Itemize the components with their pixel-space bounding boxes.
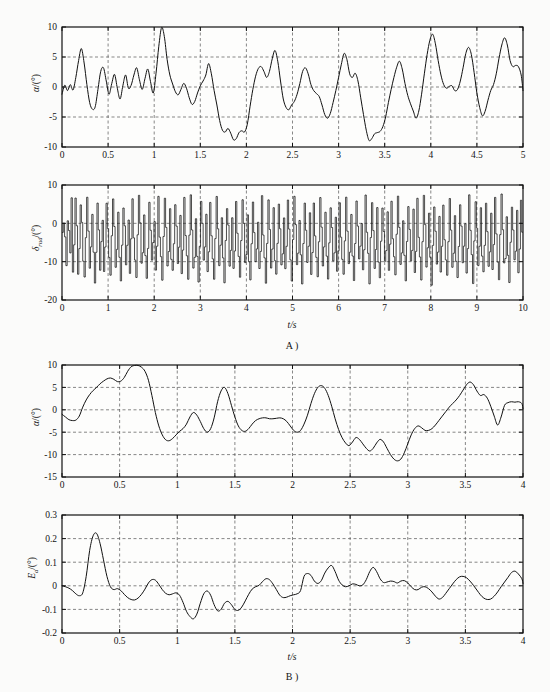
panel-a-delta: 012345678910-20-10010 (0, 175, 550, 325)
svg-text:-20: -20 (44, 295, 57, 305)
panel-a-caption: A ) (262, 340, 322, 351)
svg-text:2: 2 (290, 480, 295, 490)
svg-text:0: 0 (52, 219, 57, 229)
svg-text:4: 4 (428, 150, 433, 160)
svg-text:0.5: 0.5 (114, 636, 126, 646)
svg-text:5: 5 (521, 150, 526, 160)
svg-text:6: 6 (336, 303, 341, 313)
panel-a-xaxis-label: t/s (262, 320, 322, 330)
svg-text:3: 3 (405, 636, 410, 646)
svg-text:0.5: 0.5 (102, 150, 114, 160)
svg-text:-10: -10 (44, 257, 57, 267)
panel-a-alpha: 00.511.522.533.544.55-10-50510 (0, 0, 550, 175)
panel-b-alpha-ylabel: α/(°) (31, 387, 41, 447)
svg-text:1.5: 1.5 (229, 636, 241, 646)
svg-text:2: 2 (244, 150, 249, 160)
svg-text:2: 2 (290, 636, 295, 646)
svg-text:0.1: 0.1 (45, 558, 57, 568)
svg-text:10: 10 (48, 360, 58, 370)
panel-a-alpha-ylabel: α/(°) (31, 53, 41, 113)
svg-text:10: 10 (518, 303, 528, 313)
svg-text:2: 2 (152, 303, 157, 313)
plot-a-alpha-canvas: 00.511.522.533.544.55-10-50510 (0, 0, 550, 175)
panel-b-xaxis-label: t/s (262, 652, 322, 662)
svg-text:0: 0 (52, 581, 57, 591)
panel-b-error: 00.511.522.533.54-0.2-0.100.10.20.3 (0, 505, 550, 655)
svg-text:1.5: 1.5 (194, 150, 206, 160)
svg-text:5: 5 (52, 52, 57, 62)
svg-text:0: 0 (60, 303, 65, 313)
svg-text:7: 7 (382, 303, 387, 313)
plot-b-error-canvas: 00.511.522.533.54-0.2-0.100.10.20.3 (0, 505, 550, 655)
svg-text:5: 5 (52, 383, 57, 393)
panel-b-caption: B ) (262, 671, 322, 682)
panel-b-alpha: 00.511.522.533.54-15-10-50510 (0, 355, 550, 505)
svg-text:0: 0 (52, 82, 57, 92)
svg-text:3: 3 (336, 150, 341, 160)
svg-text:4: 4 (244, 303, 249, 313)
figure-root: 00.511.522.533.544.55-10-50510 α/(°) 012… (0, 0, 550, 692)
svg-text:4: 4 (521, 480, 526, 490)
svg-text:3.5: 3.5 (459, 480, 471, 490)
svg-text:1.5: 1.5 (229, 480, 241, 490)
svg-text:0.2: 0.2 (45, 534, 57, 544)
plot-a-delta-canvas: 012345678910-20-10010 (0, 175, 550, 325)
svg-text:-5: -5 (49, 428, 57, 438)
svg-text:2.5: 2.5 (287, 150, 299, 160)
svg-text:-0.2: -0.2 (42, 628, 57, 638)
svg-text:3.5: 3.5 (379, 150, 391, 160)
svg-text:3: 3 (405, 480, 410, 490)
svg-text:0: 0 (60, 636, 65, 646)
svg-text:0: 0 (60, 480, 65, 490)
svg-text:4: 4 (521, 636, 526, 646)
svg-text:1: 1 (106, 303, 111, 313)
svg-text:-0.1: -0.1 (42, 605, 57, 615)
svg-text:3.5: 3.5 (459, 636, 471, 646)
plot-b-alpha-canvas: 00.511.522.533.54-15-10-50510 (0, 355, 550, 505)
svg-text:3: 3 (198, 303, 203, 313)
svg-text:9: 9 (475, 303, 480, 313)
svg-text:8: 8 (428, 303, 433, 313)
svg-text:1: 1 (175, 636, 180, 646)
svg-text:10: 10 (48, 180, 58, 190)
svg-text:0: 0 (52, 405, 57, 415)
svg-text:2.5: 2.5 (344, 636, 356, 646)
svg-text:0: 0 (60, 150, 65, 160)
svg-text:-10: -10 (44, 142, 57, 152)
svg-text:10: 10 (48, 22, 58, 32)
svg-text:0.3: 0.3 (45, 510, 57, 520)
svg-text:1: 1 (175, 480, 180, 490)
svg-text:5: 5 (290, 303, 295, 313)
svg-text:1: 1 (152, 150, 157, 160)
panel-b-error-ylabel: Ea/(°) (27, 537, 39, 599)
svg-text:4.5: 4.5 (471, 150, 483, 160)
svg-text:-5: -5 (49, 112, 57, 122)
svg-text:-15: -15 (44, 472, 57, 482)
svg-text:0.5: 0.5 (114, 480, 126, 490)
panel-a-delta-ylabel: δrud/(°) (31, 203, 43, 273)
svg-text:2.5: 2.5 (344, 480, 356, 490)
svg-text:-10: -10 (44, 450, 57, 460)
